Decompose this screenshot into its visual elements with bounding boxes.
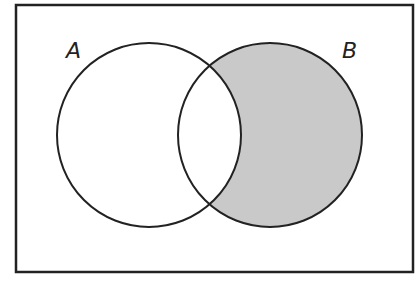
set-b-label: B [342,38,357,63]
set-a-label: A [64,38,81,63]
venn-diagram: A B [0,0,419,281]
